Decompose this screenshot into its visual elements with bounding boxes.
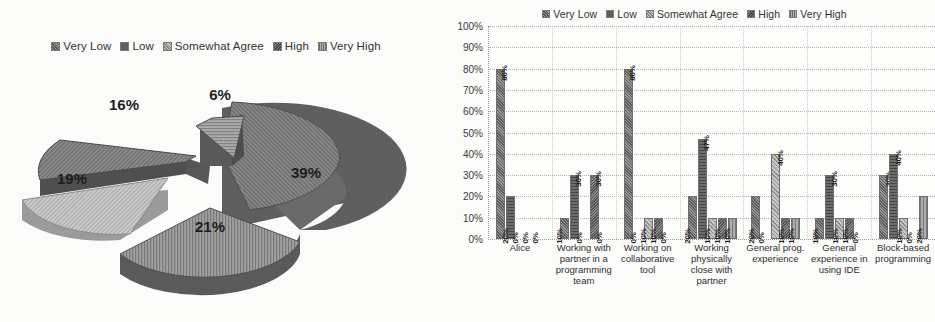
y-axis-tick: 10% [463, 212, 483, 223]
x-axis-category-label: Working on collaborative tool [616, 242, 680, 304]
legend-entry-high: High [747, 8, 780, 20]
legend-entry-very-high: Very High [318, 40, 381, 52]
y-axis-tick: 30% [463, 170, 483, 181]
bar-chart-panel: Very Low Low Somewhat Agree High Very Hi… [432, 0, 923, 322]
x-axis-category-label: Working physically close with partner [680, 242, 744, 304]
bar: 47% [698, 139, 707, 239]
bar: 30% [879, 175, 888, 239]
y-axis-tick: 100% [457, 21, 483, 32]
x-axis-category-label: Block-based programming [871, 242, 935, 304]
pie-slice-label-16: 16% [109, 96, 139, 113]
legend-label-low: Low [132, 40, 153, 52]
pie-slice-label-19: 19% [57, 170, 87, 187]
legend-label-very-high: Very High [800, 8, 846, 20]
pie-slice-label-39: 39% [291, 164, 321, 181]
y-axis-tick: 40% [463, 148, 483, 159]
x-axis-labels: AliceWorking with partner in a programmi… [488, 242, 935, 304]
bar: 30% [570, 175, 579, 239]
y-axis-tick: 60% [463, 106, 483, 117]
bar: 30% [590, 175, 599, 239]
bar-value-label: 80% [628, 65, 637, 80]
legend-label-somewhat-agree: Somewhat Agree [175, 40, 264, 52]
legend-swatch-very-high-icon [789, 10, 797, 18]
legend-swatch-very-high-icon [318, 42, 327, 51]
bar: 40% [889, 154, 898, 239]
bar-value-label: 40% [894, 150, 903, 165]
legend-label-somewhat-agree: Somewhat Agree [657, 8, 738, 20]
legend-label-low: Low [617, 8, 637, 20]
pie-chart-panel: Very Low Low Somewhat Agree High Very Hi… [0, 0, 432, 322]
bar-groups: 80%20%0%0%0%10%30%0%30%0%80%0%10%10%0%20… [489, 26, 935, 239]
bar: 10% [815, 218, 824, 239]
legend-swatch-low-icon [606, 10, 614, 18]
bar: 10% [560, 218, 569, 239]
plot-canvas: 80%20%0%0%0%10%30%0%30%0%80%0%10%10%0%20… [488, 26, 935, 240]
legend-entry-very-high: Very High [789, 8, 846, 20]
y-axis-tick: 0% [469, 234, 483, 245]
legend-label-high: High [285, 40, 309, 52]
legend-entry-very-low: Very Low [51, 40, 111, 52]
legend-label-high: High [758, 8, 780, 20]
bar: 40% [771, 154, 780, 239]
y-axis-tick: 70% [463, 84, 483, 95]
legend-swatch-high-icon [747, 10, 755, 18]
legend-label-very-low: Very Low [553, 8, 597, 20]
bar: 80% [496, 69, 505, 239]
bar-value-label: 80% [500, 65, 509, 80]
legend-swatch-high-icon [273, 42, 282, 51]
bar-chart-plot-area: 0%10%20%30%40%50%60%70%80%90%100% 80%20%… [452, 26, 935, 256]
y-axis: 0%10%20%30%40%50%60%70%80%90%100% [452, 26, 486, 239]
legend-swatch-very-low-icon [542, 10, 550, 18]
y-axis-tick: 80% [463, 63, 483, 74]
bar-value-label: 30% [830, 171, 839, 186]
y-axis-tick: 90% [463, 42, 483, 53]
pie-chart-plot: 39% 21% 19% 16% 6% [0, 62, 432, 297]
pie-slice-label-21: 21% [195, 218, 225, 235]
y-axis-tick: 50% [463, 127, 483, 138]
pie-slice-6 [196, 114, 244, 166]
legend-entry-low: Low [606, 8, 637, 20]
bar: 20% [919, 196, 928, 239]
bar-value-label: 30% [574, 171, 583, 186]
legend-entry-high: High [273, 40, 309, 52]
bar-value-label: 40% [776, 150, 785, 165]
legend-entry-somewhat-agree: Somewhat Agree [646, 8, 738, 20]
bar-group: 20%47%10%10%10% [681, 26, 745, 239]
legend-entry-somewhat-agree: Somewhat Agree [163, 40, 264, 52]
legend-swatch-very-low-icon [51, 42, 60, 51]
bar-group: 10%30%0%30%0% [553, 26, 617, 239]
bar-chart-legend: Very Low Low Somewhat Agree High Very Hi… [472, 6, 917, 22]
bar: 10% [728, 218, 737, 239]
x-axis-category-label: Working with partner in a programming te… [552, 242, 616, 304]
legend-entry-very-low: Very Low [542, 8, 597, 20]
legend-swatch-somewhat-agree-icon [163, 42, 172, 51]
bar-group: 80%20%0%0%0% [489, 26, 553, 239]
bar: 10% [791, 218, 800, 239]
pie-slice-label-6: 6% [209, 86, 231, 103]
x-axis-category-label: General experience in using IDE [807, 242, 871, 304]
bar: 80% [624, 69, 633, 239]
x-axis-category-label: Alice [488, 242, 552, 304]
bar-group: 30%40%10%0%20% [872, 26, 935, 239]
bar-group: 10%30%10%10%0% [808, 26, 872, 239]
pie-chart-legend: Very Low Low Somewhat Agree High Very Hi… [0, 40, 432, 52]
bar-value-label: 47% [702, 135, 711, 150]
bar: 20% [688, 196, 697, 239]
legend-swatch-low-icon [120, 42, 129, 51]
legend-label-very-high: Very High [330, 40, 381, 52]
legend-swatch-somewhat-agree-icon [646, 10, 654, 18]
legend-label-very-low: Very Low [63, 40, 111, 52]
y-axis-tick: 20% [463, 191, 483, 202]
bar-value-label: 30% [594, 171, 603, 186]
legend-entry-low: Low [120, 40, 153, 52]
bar-group: 20%0%40%10%10% [744, 26, 808, 239]
pie-chart-svg: 39% 21% 19% 16% 6% [0, 62, 432, 297]
x-axis-category-label: General prog. experience [743, 242, 807, 304]
bar-group: 80%0%10%10%0% [617, 26, 681, 239]
